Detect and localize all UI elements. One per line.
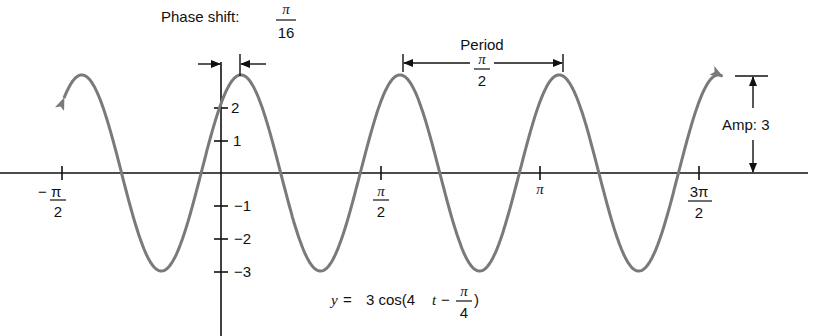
- cosine-graph: − π 2 π 2 π 3π 2 2 1 −1 −2 −3 Phase shif…: [0, 0, 822, 336]
- svg-text:3 cos(4: 3 cos(4: [366, 291, 415, 308]
- phase-shift-annotation: Phase shift: π 16: [161, 1, 296, 76]
- svg-text:−: −: [441, 291, 450, 308]
- svg-text:): ): [474, 291, 479, 308]
- svg-text:2: 2: [231, 99, 239, 116]
- svg-text:π: π: [536, 181, 544, 197]
- svg-text:2: 2: [377, 203, 385, 220]
- svg-text:y: y: [329, 292, 338, 308]
- svg-text:π: π: [377, 183, 385, 199]
- period-annotation: Period π 2: [403, 36, 563, 89]
- svg-text:π: π: [282, 1, 290, 17]
- svg-text:2: 2: [54, 203, 62, 220]
- svg-text:=: =: [343, 291, 352, 308]
- svg-text:4: 4: [460, 304, 468, 321]
- svg-text:2: 2: [695, 204, 703, 221]
- svg-text:Amp: 3: Amp: 3: [722, 116, 770, 133]
- svg-text:π: π: [460, 283, 468, 299]
- svg-text:1: 1: [233, 132, 241, 149]
- svg-text:t: t: [432, 292, 437, 308]
- svg-text:−3: −3: [234, 263, 251, 280]
- equation-label: y = 3 cos(4 t − π 4 ): [329, 283, 479, 321]
- svg-text:− π: − π: [38, 183, 61, 200]
- svg-text:π: π: [478, 51, 486, 67]
- svg-text:−1: −1: [234, 197, 251, 214]
- svg-text:3π: 3π: [690, 183, 709, 200]
- svg-text:Phase shift:: Phase shift:: [161, 8, 239, 25]
- svg-text:−2: −2: [234, 230, 251, 247]
- amplitude-annotation: Amp: 3: [722, 76, 770, 172]
- y-tick-labels: 2 1 −1 −2 −3: [231, 99, 251, 280]
- svg-text:16: 16: [278, 24, 295, 41]
- svg-text:2: 2: [478, 72, 486, 89]
